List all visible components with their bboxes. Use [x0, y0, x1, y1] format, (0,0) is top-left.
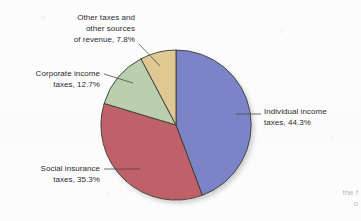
pie-chart-figure: Other taxes and other sources of revenue… [0, 0, 361, 221]
pie-label-other-taxes: Other taxes and other sources of revenue… [28, 12, 135, 45]
clipped-edge-text: the f o [296, 187, 358, 209]
pie-label-social-insurance-taxes: Social insurance taxes, 35.3% [10, 163, 100, 185]
pie-slices [101, 50, 251, 200]
pie-label-corporate-income-taxes: Corporate income taxes, 12.7% [14, 68, 100, 90]
pie-label-individual-income-taxes: Individual income taxes, 44.3% [264, 106, 327, 128]
